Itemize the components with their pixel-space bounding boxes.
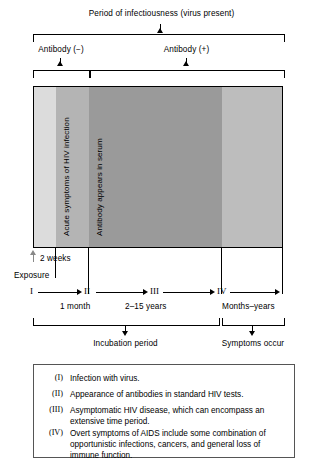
vlabel-antibody-appears: Antibody appears in serum <box>95 138 104 236</box>
stage-arrow-2-to-3-stem <box>96 292 144 293</box>
diagram-title: Period of infectiousness (virus present) <box>0 10 323 19</box>
hiv-infection-timeline-diagram: Period of infectiousness (virus present)… <box>0 0 323 470</box>
stage-arrow-1-to-2-head-icon <box>77 289 82 295</box>
label-exposure: Exposure <box>14 272 49 281</box>
legend-item-4-text: Overt symptoms of AIDS include some comb… <box>70 428 282 461</box>
label-symptoms-occur: Symptoms occur <box>214 340 292 349</box>
legend-item-2-number: (II) <box>37 389 63 400</box>
legend-item-1-text: Infection with virus. <box>70 373 140 384</box>
legend-item-4-number: (IV) <box>37 428 63 461</box>
label-antibody-negative: Antibody (−) <box>33 46 89 55</box>
label-two-weeks: 2 weeks <box>40 255 71 264</box>
band-seroconversion <box>56 87 89 247</box>
symptoms-arrow-head-icon <box>249 331 255 336</box>
legend-item-2-text: Appearance of antibodies in standard HIV… <box>70 389 243 400</box>
legend-item-1: (I) Infection with virus. <box>37 373 289 384</box>
stage-roman-2: II <box>84 286 90 296</box>
vlabel-acute-symptoms: Acute symptoms of HIV infection <box>62 117 71 236</box>
antibody-positive-arrow-head-icon <box>183 61 189 66</box>
title-arrow-head-icon <box>157 28 163 33</box>
incubation-arrow-head-icon <box>122 331 128 336</box>
bracket-period-of-infectiousness <box>33 34 285 42</box>
stage-roman-3: III <box>150 286 159 296</box>
bracket-symptoms-occur <box>222 318 285 326</box>
legend-item-1-number: (I) <box>37 373 63 384</box>
bracket-incubation-period <box>33 318 220 326</box>
legend-box: (I) Infection with virus. (II) Appearanc… <box>33 364 295 458</box>
antibody-negative-arrow-head-icon <box>57 61 63 66</box>
duration-stage-3: 2–15 years <box>125 303 167 312</box>
exposure-arrow-head-icon <box>30 250 36 255</box>
bracket-antibody-negative <box>33 70 90 78</box>
duration-stage-2: 1 month <box>60 303 90 312</box>
stage-arrow-4-to-end-stem <box>230 292 276 293</box>
legend-item-4: (IV) Overt symptoms of AIDS include some… <box>37 428 289 461</box>
label-antibody-positive: Antibody (+) <box>90 46 283 55</box>
tick-end <box>282 248 283 294</box>
legend-item-3-number: (III) <box>37 405 63 427</box>
stage-roman-4: IV <box>217 286 227 296</box>
bracket-antibody-positive <box>90 70 285 78</box>
band-asymptomatic <box>89 87 222 247</box>
stage-arrow-3-to-4-stem <box>163 292 211 293</box>
legend-item-3-text: Asymptomatic HIV disease, which can enco… <box>70 405 282 427</box>
band-acute-phase <box>34 87 56 247</box>
label-incubation-period: Incubation period <box>33 340 218 349</box>
band-aids-symptomatic <box>222 87 282 247</box>
stage-arrow-4-to-end-head-icon <box>275 289 280 295</box>
legend-item-2: (II) Appearance of antibodies in standar… <box>37 389 289 400</box>
stage-arrow-1-to-2-stem <box>38 292 78 293</box>
stage-roman-1: I <box>30 286 33 296</box>
duration-stage-4: Months–years <box>222 303 275 312</box>
stage-arrow-2-to-3-head-icon <box>143 289 148 295</box>
stage-arrow-3-to-4-head-icon <box>210 289 215 295</box>
legend-item-3: (III) Asymptomatic HIV disease, which ca… <box>37 405 289 427</box>
